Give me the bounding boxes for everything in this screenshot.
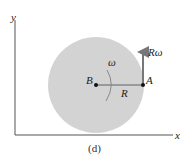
point-a-label: A — [145, 74, 153, 86]
figure-caption: (d) — [88, 142, 101, 155]
x-axis-label: x — [174, 129, 180, 141]
rolling-disk-diagram: y x ω Rω B A R (d) — [0, 0, 190, 160]
radius-label: R — [120, 87, 128, 99]
angular-velocity-label: ω — [108, 56, 116, 68]
velocity-label: Rω — [147, 46, 163, 58]
point-b-dot — [94, 83, 98, 87]
point-a-dot — [141, 83, 145, 87]
y-axis-label: y — [10, 11, 16, 23]
point-b-label: B — [86, 74, 93, 86]
